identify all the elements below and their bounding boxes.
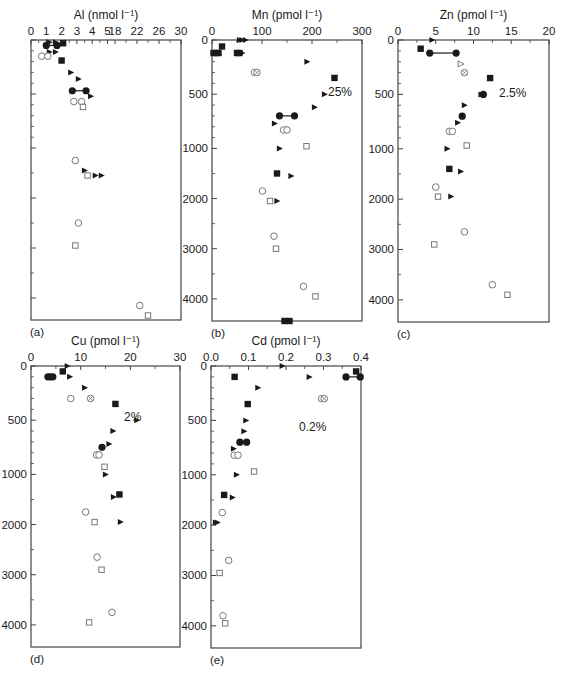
open-square-marker	[273, 246, 278, 251]
y-tick-label: 3000	[1, 569, 27, 581]
triangle-marker	[280, 363, 286, 369]
open-circle-marker	[300, 283, 307, 290]
panel-label: (a)	[30, 326, 44, 338]
open-square-marker	[223, 621, 228, 626]
y-tick-label: 1000	[182, 142, 208, 154]
triangle-marker	[67, 374, 73, 380]
x-tick-label: 200	[302, 25, 321, 37]
open-circle-marker	[489, 281, 496, 288]
x-tick-label: 0.3	[316, 351, 332, 363]
circle-marker	[426, 49, 433, 56]
open-square-marker	[80, 104, 85, 109]
triangle-marker	[103, 471, 109, 477]
open-square-marker	[92, 519, 97, 524]
triangle-marker	[304, 59, 310, 65]
triangle-marker	[65, 363, 71, 369]
y-tick-label: 2000	[1, 519, 27, 531]
axis-title: Mn (pmol l⁻¹)	[252, 8, 322, 22]
open-circle-marker	[225, 557, 232, 564]
square-marker	[60, 40, 66, 46]
series-open-circle-crossed	[87, 395, 94, 402]
circle-marker	[53, 42, 60, 49]
x-tick-label: 0	[28, 351, 34, 363]
open-circle-marker	[284, 127, 291, 134]
series-filled-circle	[276, 112, 298, 119]
open-square-marker	[432, 242, 437, 247]
x-tick-label: 300	[352, 25, 371, 37]
triangle-marker	[111, 494, 117, 500]
triangle-marker	[307, 374, 313, 380]
open-circle-marker	[235, 452, 242, 459]
series-filled-circle	[43, 42, 90, 95]
circle-marker	[480, 91, 487, 98]
series-filled-circle	[426, 49, 487, 119]
square-marker	[58, 57, 64, 63]
square-marker	[221, 492, 227, 498]
open-square-marker	[99, 567, 104, 572]
triangle-marker	[99, 173, 105, 179]
series-open-circle	[67, 395, 115, 615]
y-tick-label: 2000	[181, 519, 207, 531]
open-square-marker	[217, 570, 222, 575]
series-filled-triangle	[429, 37, 484, 200]
series-filled-circle	[236, 373, 364, 445]
panel-al: Al (nmol l⁻¹)01234518222630(a)	[28, 8, 188, 338]
triangle-marker	[274, 198, 280, 204]
circle-marker	[459, 113, 466, 120]
y-tick-label: 0	[201, 360, 207, 372]
y-tick-label: 1000	[368, 143, 394, 155]
x-tick-label: 15	[505, 25, 518, 37]
open-circle-marker	[71, 98, 78, 105]
open-circle-marker	[72, 157, 79, 164]
series-open-square	[432, 143, 511, 298]
triangle-marker	[53, 49, 59, 55]
x-tick-label: 22	[131, 25, 144, 37]
circle-marker	[69, 87, 76, 94]
open-circle-marker	[461, 229, 468, 236]
open-circle-marker	[45, 53, 52, 60]
panel-label: (b)	[211, 327, 225, 339]
y-tick-label: 2000	[368, 193, 394, 205]
x-tick-label: 0	[209, 25, 215, 37]
circle-marker	[243, 439, 250, 446]
series-filled-triangle	[237, 37, 328, 204]
square-marker	[274, 170, 280, 176]
triangle-marker	[118, 519, 124, 525]
series-open-circle	[251, 69, 307, 289]
triangle-marker	[458, 168, 464, 174]
series-open-square	[86, 464, 107, 625]
x-tick-label: 3	[74, 25, 80, 37]
y-tick-label: 500	[8, 414, 27, 426]
x-tick-label: 4	[89, 25, 96, 37]
open-circle-marker	[259, 188, 266, 195]
square-marker	[116, 491, 122, 497]
x-tick-label: 1	[43, 25, 49, 37]
triangle-marker	[106, 441, 112, 447]
x-tick-label: 2	[58, 25, 64, 37]
triangle-marker	[243, 37, 249, 43]
series-filled-square	[417, 46, 493, 173]
triangle-marker	[312, 104, 318, 110]
x-tick-label: 5	[433, 25, 439, 37]
square-marker	[231, 374, 237, 380]
circle-marker	[98, 444, 105, 451]
circle-marker	[82, 87, 89, 94]
circle-marker	[43, 42, 50, 49]
open-square-marker	[86, 620, 91, 625]
plot-frame	[212, 40, 362, 321]
triangle-marker	[277, 145, 283, 151]
axis-title: Zn (pmol l⁻¹)	[440, 8, 508, 22]
circle-marker	[236, 439, 243, 446]
triangle-marker	[234, 472, 240, 478]
circle-marker	[276, 112, 283, 119]
open-square-marker	[102, 464, 107, 469]
triangle-marker	[455, 120, 461, 126]
triangle-marker	[288, 173, 294, 179]
triangle-marker	[322, 91, 328, 97]
triangle-marker	[231, 446, 237, 452]
open-square-marker	[85, 173, 90, 178]
square-marker	[353, 368, 359, 374]
open-circle-marker	[271, 233, 278, 240]
triangle-marker	[255, 385, 261, 391]
square-marker	[446, 166, 452, 172]
